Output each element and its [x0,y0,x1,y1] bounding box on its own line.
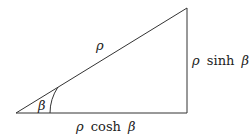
angle-label: β [37,98,46,113]
opposite-rho: ρ [191,53,200,68]
adjacent-label: ρ cosh β [75,119,136,134]
hypotenuse-label: ρ [95,38,104,53]
adjacent-beta: β [127,119,136,134]
hyperbolic-triangle-diagram: ρ β ρ sinh β ρ cosh β [0,0,252,140]
opposite-fn: sinh [207,53,235,68]
adjacent-rho: ρ [75,119,84,134]
opposite-label: ρ sinh β [191,53,249,68]
opposite-beta: β [241,53,250,68]
adjacent-fn: cosh [91,119,122,134]
